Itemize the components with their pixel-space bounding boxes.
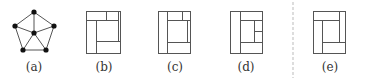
graph-edge <box>23 33 34 50</box>
planar-graph-a <box>12 9 56 52</box>
rect-dissection-d <box>231 12 263 54</box>
rectangular-duals <box>87 12 346 54</box>
graph-node-bl <box>20 47 25 52</box>
label-d: (d) <box>237 60 254 74</box>
figure-canvas <box>0 0 370 84</box>
graph-node-left <box>12 23 17 28</box>
graph-edge <box>34 12 54 26</box>
graph-node-center <box>31 30 36 35</box>
graph-edge <box>34 26 54 33</box>
graph-node-top <box>31 9 36 14</box>
graph-node-right <box>51 23 56 28</box>
graph-edge <box>46 26 54 50</box>
outer-box <box>87 12 121 54</box>
label-e: (e) <box>322 60 338 74</box>
graph-edge <box>15 26 23 50</box>
graph-node-br <box>43 47 48 52</box>
rect-dissection-c <box>159 12 191 54</box>
graph-edge <box>15 12 34 26</box>
label-a: (a) <box>26 60 43 74</box>
graph-edge <box>34 33 46 50</box>
graph-edge <box>15 26 34 33</box>
outer-box <box>314 12 346 54</box>
rect-dissection-b <box>87 12 121 54</box>
outer-box <box>159 12 191 54</box>
label-c: (c) <box>167 60 183 74</box>
label-b: (b) <box>95 60 112 74</box>
rect-dissection-e <box>314 12 346 54</box>
outer-box <box>231 12 263 54</box>
